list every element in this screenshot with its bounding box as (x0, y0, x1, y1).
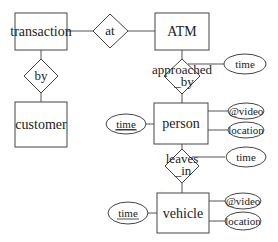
attribute-vehicle-location: location (225, 212, 261, 230)
relationship-at: at (93, 14, 128, 48)
attribute-vehicle-time: time (108, 202, 148, 224)
attribute-person-video: @video (228, 103, 264, 119)
entity-label: vehicle (163, 206, 203, 221)
relationship-label: by (35, 68, 49, 83)
attribute-label: location (225, 215, 261, 227)
relationship-label-line2: _in (174, 163, 192, 178)
attribute-label: time (118, 207, 138, 219)
relationship-label: at (105, 23, 115, 38)
attribute-label: @video (229, 105, 264, 117)
attribute-vehicle-video: @video (225, 193, 261, 209)
attribute-label: location (228, 124, 264, 136)
entity-label: customer (15, 117, 67, 132)
attribute-label: time (236, 151, 256, 163)
entity-transaction: transaction (10, 13, 71, 50)
entity-label: person (162, 116, 199, 131)
relationship-leaves-in: leaves _in (165, 149, 199, 183)
entity-label: transaction (10, 24, 71, 39)
attribute-approached-by-time: time (224, 54, 266, 74)
er-diagram: transaction at ATM by customer approache… (0, 0, 278, 242)
attribute-label: time (116, 118, 136, 130)
relationship-label-line2: _by (173, 74, 194, 89)
entity-person: person (154, 103, 208, 144)
relationship-approached-by: approached _by (152, 59, 212, 94)
entity-vehicle: vehicle (157, 193, 209, 233)
attribute-person-time: time (106, 114, 146, 134)
attribute-label: @video (226, 195, 261, 207)
attribute-leaves-in-time: time (226, 147, 266, 167)
entity-label: ATM (167, 24, 197, 39)
entity-customer: customer (15, 102, 67, 147)
attribute-label: time (235, 58, 255, 70)
entity-atm: ATM (155, 13, 209, 50)
relationship-by: by (24, 59, 58, 93)
attribute-person-location: location (228, 122, 264, 138)
